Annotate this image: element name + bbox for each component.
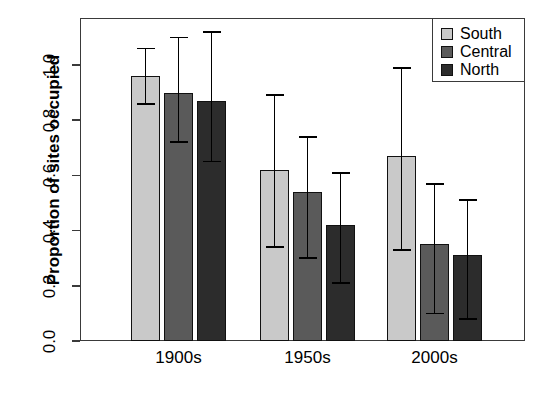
legend-label: South xyxy=(460,26,502,42)
y-axis-tick-label: 0.4 xyxy=(41,216,58,246)
y-axis-tick-mark xyxy=(72,285,80,287)
x-axis-tick-label: 1900s xyxy=(119,349,239,366)
error-bar-stem xyxy=(467,200,469,319)
y-axis-tick-label: 0.0 xyxy=(41,327,58,357)
y-axis-tick-label: 0.6 xyxy=(41,161,58,191)
error-bar-cap-lower xyxy=(170,141,188,143)
y-axis-tick-mark xyxy=(72,340,80,342)
error-bar-cap-lower xyxy=(393,249,411,251)
x-axis-tick-label: 1950s xyxy=(248,349,368,366)
error-bar-cap-upper xyxy=(203,31,221,33)
legend-item-south: South xyxy=(441,25,524,43)
error-bar-stem xyxy=(145,48,147,103)
error-bar-stem xyxy=(401,68,403,250)
error-bar-cap-upper xyxy=(137,48,155,50)
error-bar-cap-upper xyxy=(332,172,350,174)
bar-south-1900s xyxy=(131,76,160,341)
legend-swatch-central xyxy=(441,46,453,58)
bar-chart: Proportion of sites occupied 0.00.20.40.… xyxy=(0,0,544,399)
x-axis-tick-label: 2000s xyxy=(375,349,495,366)
error-bar-stem xyxy=(434,184,436,314)
legend-label: North xyxy=(460,62,499,78)
error-bar-cap-lower xyxy=(203,161,221,163)
error-bar-stem xyxy=(274,95,276,247)
legend-label: Central xyxy=(460,44,512,60)
error-bar-cap-lower xyxy=(266,246,284,248)
error-bar-cap-upper xyxy=(299,136,317,138)
legend-item-central: Central xyxy=(441,43,524,61)
caption-strip xyxy=(0,372,544,399)
y-axis-tick-label: 1.0 xyxy=(41,51,58,81)
y-axis-tick-mark xyxy=(72,64,80,66)
error-bar-cap-upper xyxy=(393,67,411,69)
legend: SouthCentralNorth xyxy=(432,18,525,82)
error-bar-cap-upper xyxy=(426,183,444,185)
error-bar-stem xyxy=(178,37,180,142)
error-bar-cap-lower xyxy=(137,103,155,105)
error-bar-stem xyxy=(307,137,309,258)
error-bar-stem xyxy=(340,173,342,283)
error-bar-cap-lower xyxy=(332,282,350,284)
legend-item-north: North xyxy=(441,61,524,79)
y-axis-tick-mark xyxy=(72,119,80,121)
error-bar-cap-upper xyxy=(459,199,477,201)
error-bar-stem xyxy=(211,32,213,162)
error-bar-cap-lower xyxy=(459,318,477,320)
legend-swatch-north xyxy=(441,64,453,76)
y-axis-tick-mark xyxy=(72,175,80,177)
y-axis-tick-label: 0.8 xyxy=(41,106,58,136)
y-axis-tick-label: 0.2 xyxy=(41,271,58,301)
error-bar-cap-lower xyxy=(426,313,444,315)
y-axis-tick-mark xyxy=(72,230,80,232)
error-bar-cap-upper xyxy=(266,94,284,96)
legend-swatch-south xyxy=(441,28,453,40)
error-bar-cap-upper xyxy=(170,37,188,39)
error-bar-cap-lower xyxy=(299,257,317,259)
